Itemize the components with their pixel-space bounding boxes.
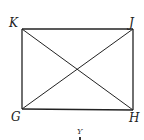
rectangle-diagram: K J H G Y (0, 0, 144, 140)
bottom-label-y: Y (77, 127, 83, 136)
edge-hg (22, 109, 133, 110)
vertex-label-g: G (11, 110, 21, 124)
diagonals (22, 29, 133, 110)
vertex-label-j: J (126, 16, 135, 30)
vertex-label-k: K (8, 16, 19, 30)
bottom-tick-mark (79, 137, 81, 140)
vertex-label-h: H (128, 111, 140, 125)
